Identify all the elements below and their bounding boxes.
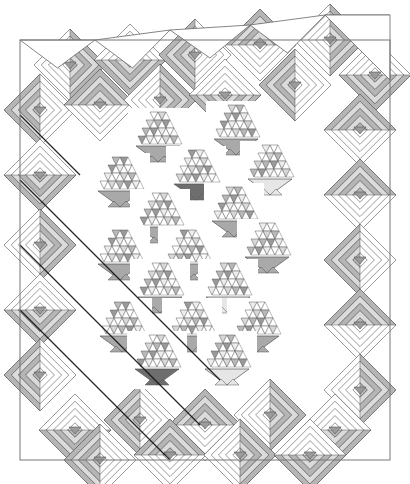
basket-block [197, 331, 257, 389]
basket-block [127, 331, 187, 389]
quilt-drawing [0, 0, 410, 484]
